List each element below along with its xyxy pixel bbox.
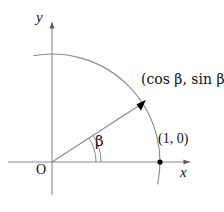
point-marker-one-zero xyxy=(157,159,162,164)
point-label-one-zero: (1, 0) xyxy=(158,132,188,146)
angle-label-beta: β xyxy=(95,134,104,149)
x-axis-label: x xyxy=(180,165,187,180)
y-axis-arrowhead-icon xyxy=(49,22,54,29)
unit-circle-diagram xyxy=(0,0,224,212)
y-axis xyxy=(49,22,54,195)
y-axis-label: y xyxy=(36,10,43,25)
unit-circle-figure: y x O (1, 0) (cos β, sin β) β xyxy=(0,0,224,212)
point-label-cos-sin: (cos β, sin β) xyxy=(141,72,224,86)
origin-label: O xyxy=(36,163,46,177)
